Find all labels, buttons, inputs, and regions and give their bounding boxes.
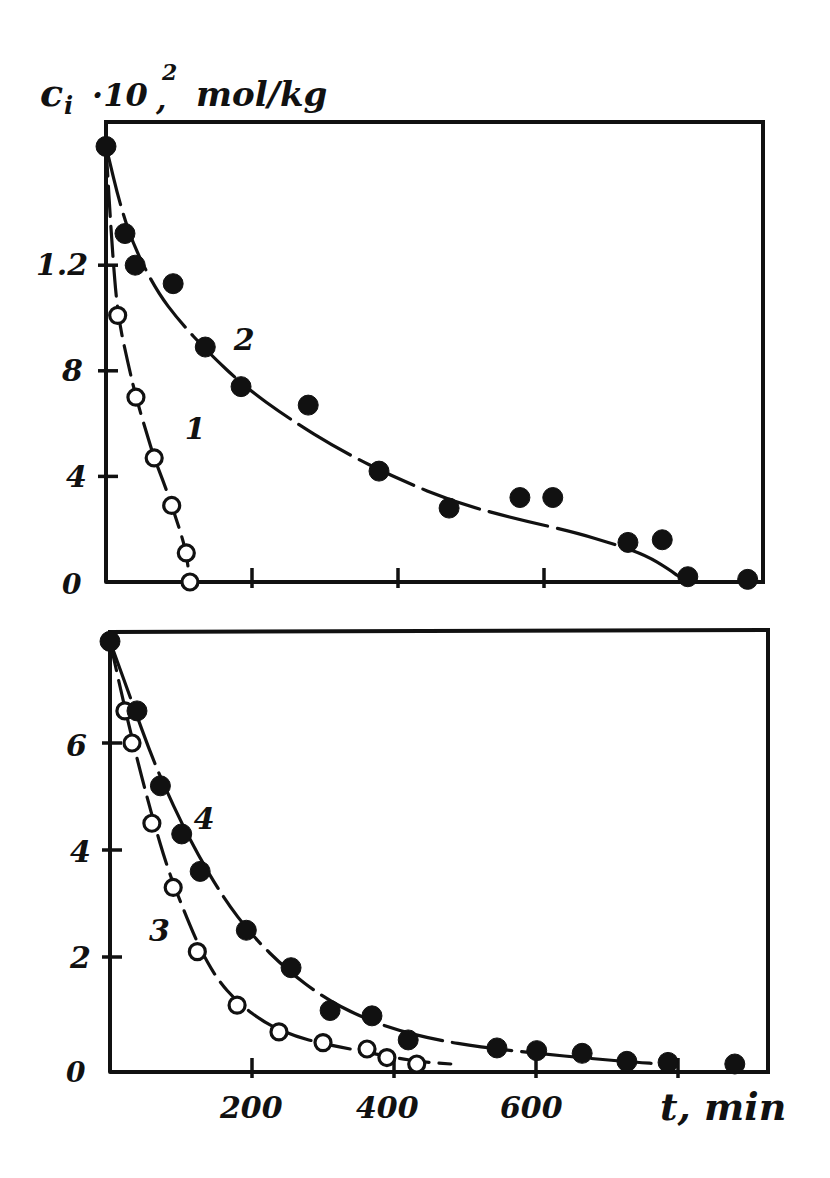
data-point-open	[315, 1035, 331, 1051]
data-point-filled	[572, 1043, 592, 1063]
data-point-open	[229, 997, 245, 1013]
data-point-open	[178, 545, 194, 561]
lower-panel-frame	[110, 630, 768, 1072]
data-point-open	[379, 1050, 395, 1066]
upper-data-points	[96, 136, 758, 590]
lower-y-tick-label: 2	[69, 940, 91, 975]
data-point-filled	[195, 337, 215, 357]
upper-y-tick-labels: 0 4 8 1.2	[36, 247, 88, 601]
lower-x-tick-label: 600	[500, 1090, 563, 1125]
fit-curve-3	[110, 641, 451, 1064]
lower-y-tick-label: 4	[70, 834, 91, 869]
data-point-filled	[231, 377, 251, 397]
lower-y-tick-labels: 0 2 4 6	[66, 728, 91, 1089]
data-point-filled	[298, 395, 318, 415]
lower-y-tick-label: 0	[66, 1056, 86, 1089]
data-point-filled	[652, 530, 672, 550]
data-point-filled	[127, 701, 147, 721]
fit-curve-4	[110, 641, 664, 1064]
ylabel-subscript-i: i	[64, 91, 73, 120]
curve-label-2: 2	[233, 322, 255, 357]
upper-y-tick-label: 8	[61, 353, 83, 388]
data-point-filled	[100, 631, 120, 651]
ylabel-multiplier: ·10	[92, 76, 148, 114]
lower-x-tick-labels: 200 400 600 t, min	[219, 1084, 786, 1129]
fit-curve-1	[106, 146, 190, 582]
data-point-open	[189, 944, 205, 960]
curve-label-1: 1	[185, 411, 206, 446]
upper-y-tick-label: 4	[66, 459, 87, 494]
data-point-open	[165, 879, 181, 895]
data-point-filled	[281, 958, 301, 978]
data-point-filled	[163, 274, 183, 294]
data-point-filled	[617, 1051, 637, 1071]
upper-panel: 0 4 8 1.2 1 2	[36, 122, 763, 601]
data-point-open	[409, 1056, 425, 1072]
lower-y-tick-label: 6	[66, 728, 87, 763]
data-point-filled	[487, 1038, 507, 1058]
fit-curve-2	[106, 146, 712, 582]
data-point-filled	[527, 1041, 547, 1061]
data-point-open	[144, 815, 160, 831]
data-point-open	[164, 497, 180, 513]
data-point-open	[271, 1024, 287, 1040]
data-point-filled	[115, 224, 135, 244]
lower-x-tick-label: 200	[219, 1090, 283, 1125]
data-point-open	[124, 735, 140, 751]
upper-axis-ticks	[98, 265, 544, 588]
data-point-open	[182, 574, 198, 590]
ylabel-c: c	[40, 70, 63, 115]
ylabel-units: mol/kg	[196, 74, 327, 114]
data-point-filled	[236, 920, 256, 940]
data-point-filled	[369, 461, 389, 481]
data-point-filled	[172, 824, 192, 844]
data-point-filled	[678, 567, 698, 587]
upper-y-tick-label: 1.2	[36, 247, 88, 282]
lower-panel: 0 2 4 6 200 400 600 t, min 3 4	[66, 630, 786, 1129]
upper-curves	[106, 146, 712, 582]
data-point-filled	[362, 1006, 382, 1026]
data-point-open	[110, 307, 126, 323]
data-point-filled	[658, 1052, 678, 1072]
data-point-filled	[96, 136, 116, 156]
data-point-filled	[398, 1030, 418, 1050]
lower-x-tick-label: 400	[356, 1090, 419, 1125]
data-point-filled	[320, 1001, 340, 1021]
ylabel-comma: ,	[155, 82, 166, 117]
data-point-filled	[543, 488, 563, 508]
data-point-filled	[738, 569, 758, 589]
data-point-filled	[125, 255, 145, 275]
lower-curves	[110, 641, 664, 1064]
kinetics-figure: c i ·10 2 , mol/kg 0 4 8 1.2 1 2 0 2 4 6…	[0, 0, 830, 1178]
curve-label-3: 3	[149, 913, 170, 948]
curve-label-4: 4	[194, 801, 215, 836]
data-point-filled	[439, 498, 459, 518]
data-point-filled	[618, 532, 638, 552]
y-axis-title: c i ·10 2 , mol/kg	[40, 59, 327, 120]
data-point-filled	[150, 776, 170, 796]
data-point-filled	[510, 488, 530, 508]
data-point-filled	[190, 861, 210, 881]
upper-y-tick-label: 0	[62, 568, 82, 601]
x-axis-title: t, min	[660, 1084, 786, 1129]
data-point-open	[146, 450, 162, 466]
data-point-open	[128, 389, 144, 405]
data-point-open	[359, 1041, 375, 1057]
data-point-filled	[725, 1054, 745, 1074]
